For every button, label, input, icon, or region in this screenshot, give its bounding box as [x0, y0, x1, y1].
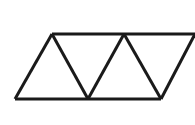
triangle-strip-figure	[0, 0, 195, 125]
figure-canvas	[0, 0, 195, 125]
figure-background	[0, 0, 195, 125]
